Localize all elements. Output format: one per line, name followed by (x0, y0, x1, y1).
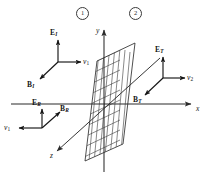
transmitted-b-arrow (145, 78, 163, 95)
transmitted-v-subscript: 2 (190, 76, 193, 82)
transmitted-e-label: ET (155, 46, 164, 54)
reflected-e-subscript: R (37, 101, 41, 107)
region-1-badge: 1 (76, 7, 89, 20)
z-axis-label: z (50, 152, 53, 160)
transmitted-v-label: v2 (187, 74, 193, 82)
incident-e-subscript: I (55, 31, 57, 37)
reflected-b-arrow (42, 112, 60, 128)
incident-v-subscript: 1 (86, 60, 89, 66)
incident-e-label: EI (50, 29, 57, 37)
reflected-e-label: ER (32, 99, 41, 107)
region-1-label: 1 (81, 10, 84, 17)
incident-wave-vectors (40, 40, 81, 79)
transmitted-wave-vectors (145, 57, 185, 95)
transmitted-b-label: BT (133, 96, 142, 104)
incident-b-label: BI (27, 81, 34, 89)
incident-b-subscript: I (32, 83, 34, 89)
transmitted-e-subscript: T (160, 48, 163, 54)
incident-v-label: v1 (83, 58, 89, 66)
x-axis-label: x (196, 105, 199, 113)
reflected-b-subscript: R (65, 107, 69, 113)
reflected-v-subscript: 1 (7, 126, 10, 132)
reflected-wave-vectors (19, 109, 60, 128)
y-axis-label: y (96, 27, 99, 35)
incident-b-arrow (40, 62, 58, 79)
region-2-label: 2 (134, 10, 137, 17)
transmitted-b-subscript: T (138, 98, 141, 104)
reflected-b-label: BR (60, 105, 69, 113)
physics-figure: 1 2 x y z EI v1 BI ER BR v1 ET v2 BT (0, 0, 211, 177)
reflected-v-label: v1 (4, 124, 10, 132)
boundary-plane (82, 38, 140, 177)
region-2-badge: 2 (129, 7, 142, 20)
